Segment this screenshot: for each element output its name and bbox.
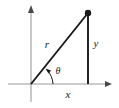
label-angle-theta: θ [56, 65, 61, 76]
label-vertical-leg-y: y [93, 37, 99, 49]
trigonometry-figure: r y x θ [0, 0, 119, 108]
label-hypotenuse-r: r [45, 38, 50, 50]
label-horizontal-leg-x: x [65, 88, 71, 100]
angle-arc-arrowhead-icon [45, 69, 51, 74]
y-axis-arrowhead-icon [28, 5, 34, 13]
x-axis-arrowhead-icon [105, 81, 112, 87]
figure-canvas: r y x θ [0, 0, 119, 108]
endpoint-dot [85, 10, 91, 16]
